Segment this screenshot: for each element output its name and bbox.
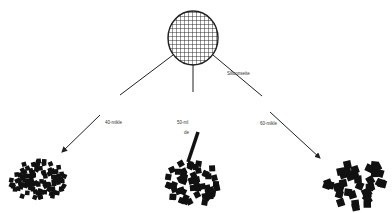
branch-label-middle-1: 50-ml — [177, 120, 188, 125]
branch-label-middle-2: de — [184, 130, 189, 135]
top-label: Siliconseite — [227, 71, 250, 76]
branch-label-left: 40-mikle — [105, 120, 122, 125]
diagram-canvas — [0, 0, 392, 213]
medium-particle-cluster — [165, 160, 221, 206]
branch-label-right: 60-mikle — [260, 121, 277, 126]
branch-lines — [62, 55, 320, 158]
rod — [188, 132, 198, 162]
coarse-particle-cluster — [322, 160, 387, 211]
fine-particle-cluster — [8, 158, 67, 200]
sieve-mesh-icon — [165, 8, 221, 68]
